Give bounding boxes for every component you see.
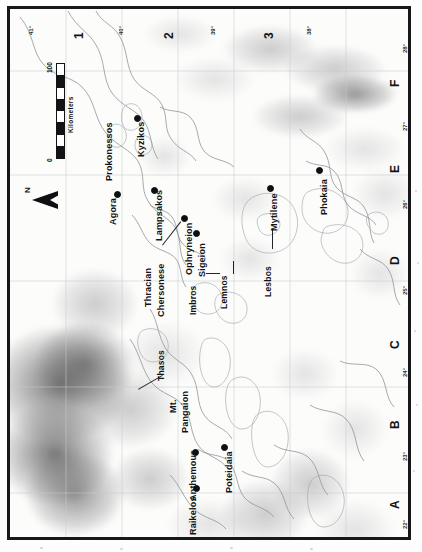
coastlines: [20, 11, 400, 529]
scale-segment: [57, 87, 64, 99]
scale-segment: [57, 99, 64, 111]
grid-letter-b: B: [388, 420, 402, 429]
label-lemnos: Lemnos: [219, 275, 229, 309]
scale-segment: [57, 64, 64, 75]
scan-speckle: [310, 548, 313, 550]
scale-segment: [57, 146, 64, 158]
settlement-dot-ophryneion[interactable]: [181, 215, 188, 222]
label-imbros: Imbros: [188, 285, 198, 315]
label-thasos: Thasos: [156, 350, 166, 381]
settlement-dot-phokaia[interactable]: [316, 167, 323, 174]
leader-line-imbros: [206, 273, 220, 274]
lon-label-24: 24°: [402, 368, 408, 377]
scale-start-label: 0: [46, 158, 53, 162]
north-letter-label: N: [23, 187, 32, 193]
scan-speckle: [413, 470, 415, 472]
label-lampsakos: Lampsakos: [154, 190, 164, 241]
label-raikelos: Raikelos: [188, 496, 198, 535]
scan-speckle: [415, 190, 417, 192]
map-canvas: Kyzikos Agora Lampsakos Ophryneion Sigei…: [10, 9, 408, 537]
scan-speckle: [40, 547, 43, 549]
label-anthemous: Anthemous: [188, 450, 198, 501]
scan-speckle: [417, 262, 419, 264]
north-arrow: N: [32, 191, 58, 209]
scan-speckle: [120, 548, 123, 550]
label-agora: Agora: [108, 198, 118, 225]
scale-end-label: 100: [46, 62, 53, 73]
label-sigeion: Sigeion: [197, 243, 207, 277]
label-pangaion: Pangaion: [180, 391, 190, 433]
grid-letter-e: E: [388, 165, 402, 173]
label-poteidaia: Poteidaia: [224, 451, 234, 493]
label-lesbos: Lesbos: [263, 266, 273, 297]
grid-letter-d: D: [388, 256, 402, 265]
scale-units-label: Kilometers: [67, 96, 74, 133]
lon-label-26: 26°: [402, 200, 408, 209]
lon-label-27: 27°: [402, 122, 408, 131]
lat-label-41: 41°: [28, 26, 34, 35]
label-mt-prefix: Mt.: [168, 399, 178, 413]
settlement-dot-poteidaia[interactable]: [221, 444, 228, 451]
scale-segment: [57, 122, 64, 134]
north-arrow-notch: [50, 195, 59, 205]
lat-label-39: 39°: [210, 26, 216, 35]
lon-label-25: 25°: [402, 286, 408, 295]
label-prokonessos: Prokonessos: [104, 122, 114, 181]
settlement-dot-mytilene[interactable]: [267, 185, 274, 192]
scale-segment: [57, 75, 64, 87]
grid-letter-c: C: [388, 340, 402, 349]
scan-speckle: [416, 404, 418, 406]
scan-speckle: [230, 547, 233, 549]
settlement-dot-sigeion[interactable]: [193, 230, 200, 237]
lon-label-22: 22°: [402, 520, 408, 529]
grid-number-1: 1: [72, 32, 86, 39]
leader-line-lemnos: [233, 261, 234, 274]
grid-letter-a: A: [388, 500, 402, 509]
scale-segment: [57, 134, 64, 146]
lon-label-28: 28°: [402, 44, 408, 53]
grid-number-2: 2: [162, 32, 176, 39]
label-mytilene: Mytilene: [269, 193, 279, 231]
grid-number-3: 3: [262, 32, 276, 39]
lon-label-23: 23°: [402, 452, 408, 461]
grid-letter-f: F: [388, 80, 402, 87]
leader-line-lesbos: [272, 229, 273, 249]
lat-label-38: 38°: [306, 26, 312, 35]
scale-bar-segments: [56, 63, 65, 159]
lat-label-40: 40°: [118, 26, 124, 35]
label-kyzikos: Kyzikos: [136, 122, 146, 157]
scale-bar: 0 100 Kilometers: [56, 63, 65, 159]
label-ophryneion: Ophryneion: [184, 222, 194, 275]
settlement-dot-agora[interactable]: [114, 191, 121, 198]
scale-segment: [57, 111, 64, 123]
label-chersonese: Chersonese: [156, 263, 166, 317]
label-phokaia: Phokaia: [319, 179, 329, 215]
scan-speckle: [414, 330, 416, 332]
map-plate-frame: Kyzikos Agora Lampsakos Ophryneion Sigei…: [7, 6, 411, 540]
label-thracian: Thracian: [143, 268, 153, 307]
map-page: Kyzikos Agora Lampsakos Ophryneion Sigei…: [0, 0, 422, 552]
